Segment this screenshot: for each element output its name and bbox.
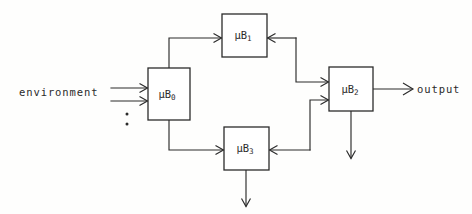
block-mu-b-0[interactable]: μB0 <box>148 68 190 120</box>
block-mu-b-3[interactable]: μB3 <box>224 127 269 170</box>
mu-b-2-label: μB <box>341 83 354 95</box>
environment-label: environment <box>19 86 98 98</box>
edge-mub0-to-mub1 <box>169 34 222 69</box>
edge-trunk-lower-to-mub2 <box>310 96 329 151</box>
mu-b-1-label: μB <box>234 29 247 41</box>
edge-trunk-upper-to-mub1 <box>268 34 297 43</box>
edge-mub0-to-mub3 <box>169 120 224 155</box>
edge-trunk-upper-to-mub2 <box>296 38 329 87</box>
mu-b-3-subscript: 3 <box>249 147 254 156</box>
mu-b-3-label: μB <box>236 142 249 154</box>
edge-mub2-down <box>347 111 356 159</box>
mu-b-1-subscript: 1 <box>247 34 252 43</box>
edge-mub2-to-output <box>373 83 413 95</box>
mu-b-2-subscript: 2 <box>354 88 359 97</box>
edge-trunk-lower-to-mub3 <box>270 146 311 155</box>
block-diagram: μB0 μB1 μB3 μB2 environment output <box>0 0 472 214</box>
output-label: output <box>417 83 460 95</box>
environment-input-2 <box>111 97 148 106</box>
mu-b-0-subscript: 0 <box>171 93 176 102</box>
edge-mub3-down <box>242 170 251 207</box>
input-ellipsis-icon <box>126 113 129 126</box>
mu-b-0-label: μB <box>158 88 171 100</box>
environment-input-1 <box>111 84 148 93</box>
diagram-canvas: μB0 μB1 μB3 μB2 environment output <box>0 0 472 214</box>
block-mu-b-2[interactable]: μB2 <box>329 67 373 111</box>
block-mu-b-1[interactable]: μB1 <box>222 14 267 57</box>
